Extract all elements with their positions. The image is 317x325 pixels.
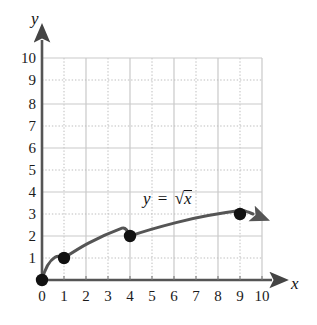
graph-figure: y x y = √x 0 1 2 3 4 5 6 7 8 9 10 10 9 8…: [0, 0, 317, 325]
radical-sign: √: [175, 189, 184, 208]
equation-radical-group: √x: [175, 189, 192, 207]
data-point-4-2: [124, 230, 136, 242]
y-tick-label-9: 9: [10, 73, 36, 88]
grid-vertical-lines: [64, 58, 262, 280]
y-axis-label: y: [31, 10, 39, 27]
x-tick-label-4: 4: [122, 289, 138, 304]
radical-overbar: [184, 190, 192, 191]
equation-annotation: y = √x: [143, 189, 192, 207]
x-tick-label-8: 8: [210, 289, 226, 304]
data-point-9-3: [234, 208, 246, 220]
x-tick-label-2: 2: [78, 289, 94, 304]
x-tick-label-0: 0: [34, 289, 50, 304]
x-tick-label-5: 5: [144, 289, 160, 304]
y-tick-label-5: 5: [10, 163, 36, 178]
equation-equals: =: [155, 189, 171, 208]
coordinate-plane-plot: [0, 0, 317, 325]
y-tick-label-3: 3: [10, 207, 36, 222]
axis-lines: [42, 40, 272, 280]
y-tick-label-1: 1: [10, 251, 36, 266]
x-axis-label: x: [291, 275, 299, 292]
x-tick-label-9: 9: [232, 289, 248, 304]
x-tick-label-1: 1: [56, 289, 72, 304]
x-tick-label-6: 6: [166, 289, 182, 304]
y-tick-label-10: 10: [10, 51, 36, 66]
y-tick-label-4: 4: [10, 185, 36, 200]
x-tick-label-3: 3: [100, 289, 116, 304]
data-points: [36, 208, 246, 286]
y-tick-label-2: 2: [10, 229, 36, 244]
equation-lhs: y: [143, 189, 151, 208]
y-tick-label-7: 7: [10, 119, 36, 134]
radicand: x: [184, 189, 192, 208]
y-tick-label-6: 6: [10, 141, 36, 156]
data-point-1-1: [58, 252, 70, 264]
data-point-0-0: [36, 274, 48, 286]
sqrt-curve: [42, 210, 253, 280]
y-tick-label-8: 8: [10, 97, 36, 112]
x-tick-label-10: 10: [250, 289, 274, 304]
x-tick-label-7: 7: [188, 289, 204, 304]
